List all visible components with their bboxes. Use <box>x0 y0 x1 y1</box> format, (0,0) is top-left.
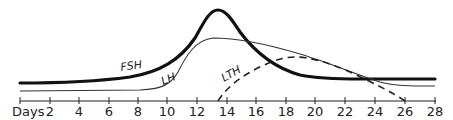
tick-label: 8 <box>134 104 142 119</box>
tick-label: 14 <box>219 104 236 119</box>
tick-label: 12 <box>189 104 206 119</box>
lh-label: LH <box>159 70 177 87</box>
tick-label: 18 <box>278 104 295 119</box>
tick-label: 16 <box>248 104 265 119</box>
x-axis-label: Days <box>12 104 45 119</box>
lth-label: LTH <box>219 63 243 84</box>
tick-label: 20 <box>307 104 324 119</box>
tick-label: 4 <box>75 104 83 119</box>
fsh-label: FSH <box>120 58 143 74</box>
tick-label: 22 <box>337 104 354 119</box>
tick-label: 10 <box>159 104 176 119</box>
tick-label: 28 <box>427 104 444 119</box>
tick-label: 6 <box>105 104 113 119</box>
tick-label: 24 <box>367 104 384 119</box>
tick-label: 26 <box>397 104 414 119</box>
hormone-chart: FSH LH LTH Days 2 4 6 8 10 12 14 16 18 2… <box>0 0 453 120</box>
tick-label: 2 <box>46 104 54 119</box>
